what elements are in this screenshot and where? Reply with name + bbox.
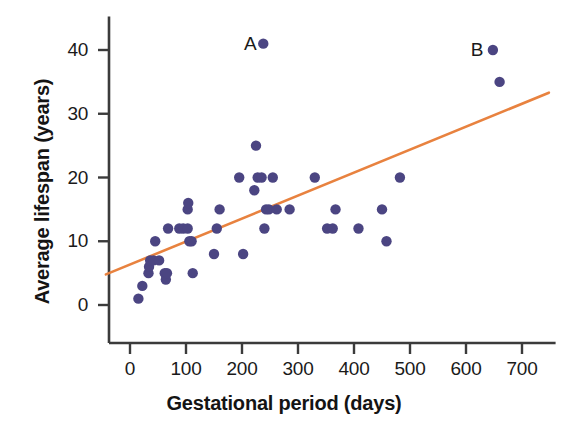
data-point	[209, 249, 219, 259]
data-point	[310, 172, 320, 182]
data-point	[381, 236, 391, 246]
data-point	[133, 293, 143, 303]
y-tick-label: 0	[48, 294, 88, 316]
data-point	[163, 223, 173, 233]
data-point	[395, 172, 405, 182]
point-annotation-a: A	[244, 33, 257, 55]
x-tick-label: 600	[451, 358, 482, 380]
data-point	[137, 281, 147, 291]
y-tick-label: 40	[48, 39, 88, 61]
data-point	[353, 223, 363, 233]
data-point	[258, 38, 268, 48]
data-point	[328, 223, 338, 233]
data-point	[330, 204, 340, 214]
x-tick-label: 100	[171, 358, 202, 380]
data-point	[259, 223, 269, 233]
trend-line	[106, 93, 549, 275]
data-point	[238, 249, 248, 259]
x-tick-label: 300	[283, 358, 314, 380]
x-tick-label: 500	[395, 358, 426, 380]
x-tick-label: 0	[125, 358, 135, 380]
data-point	[234, 172, 244, 182]
data-point	[188, 268, 198, 278]
point-annotation-b: B	[471, 39, 484, 61]
x-axis-title: Gestational period (days)	[0, 392, 568, 415]
data-point	[251, 140, 261, 150]
data-point	[186, 236, 196, 246]
data-point	[183, 198, 193, 208]
data-point	[268, 172, 278, 182]
data-point	[249, 185, 259, 195]
data-point	[214, 204, 224, 214]
y-tick-label: 30	[48, 103, 88, 125]
data-point	[162, 268, 172, 278]
data-point	[377, 204, 387, 214]
x-tick-label: 700	[507, 358, 538, 380]
data-point	[256, 172, 266, 182]
y-tick-label: 10	[48, 230, 88, 252]
data-point	[150, 236, 160, 246]
data-point	[272, 204, 282, 214]
x-tick-label: 400	[339, 358, 370, 380]
data-point	[154, 255, 164, 265]
x-tick-label: 200	[227, 358, 258, 380]
data-point	[488, 45, 498, 55]
data-point	[182, 223, 192, 233]
data-point	[284, 204, 294, 214]
scatter-chart: Average lifespan (years) Gestational per…	[0, 0, 568, 431]
data-point	[494, 77, 504, 87]
data-point	[212, 223, 222, 233]
y-tick-label: 20	[48, 167, 88, 189]
